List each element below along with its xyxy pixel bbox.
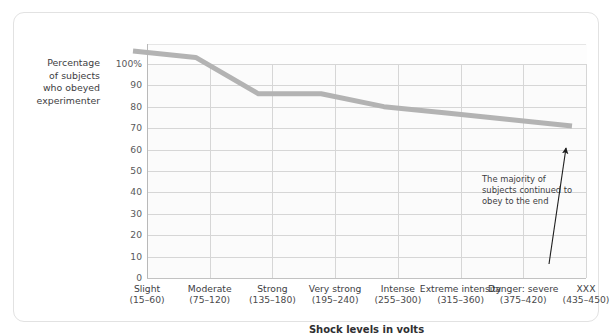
y-tick-label: 70 [102,123,142,133]
figure-root: Percentage of subjects who obeyed experi… [0,0,613,335]
y-axis-title-line-2: of subjects [49,70,100,81]
x-axis-line [147,278,586,279]
gridline-horizontal [147,107,586,108]
plot-top-border [147,44,586,45]
chart-card: Percentage of subjects who obeyed experi… [13,12,599,322]
gridline-horizontal [147,64,586,65]
y-axis-title-line-1: Percentage [47,57,100,68]
plot-area [147,64,586,278]
y-axis-title-line-4: experimenter [37,95,100,106]
x-tick-label-name: XXX [543,283,613,294]
y-tick-label: 20 [102,230,142,240]
gridline-vertical [335,64,336,278]
y-tick-label: 80 [102,102,142,112]
x-tick-label: XXX(435–450) [543,283,613,306]
plot-upper-band [147,44,587,64]
y-tick-label: 0 [102,273,142,283]
gridline-vertical [398,64,399,278]
y-tick-label: 40 [102,187,142,197]
gridline-horizontal [147,235,586,236]
gridline-vertical [461,64,462,278]
y-axis-line [147,44,148,278]
y-tick-label: 10 [102,252,142,262]
y-tick-label: 90 [102,80,142,90]
gridline-horizontal [147,85,586,86]
gridline-vertical [272,64,273,278]
gridline-horizontal [147,257,586,258]
gridline-horizontal [147,214,586,215]
gridline-vertical [586,64,587,278]
gridline-vertical [210,64,211,278]
gridline-horizontal [147,150,586,151]
y-tick-label: 50 [102,166,142,176]
gridline-horizontal [147,171,586,172]
y-tick-label: 30 [102,209,142,219]
y-axis-title: Percentage of subjects who obeyed experi… [32,57,100,107]
gridline-horizontal [147,128,586,129]
y-tick-label: 100% [102,59,142,69]
y-axis-title-line-3: who obeyed [43,82,100,93]
x-axis-title: Shock levels in volts [147,324,586,335]
gridline-vertical [523,64,524,278]
y-tick-label: 60 [102,145,142,155]
chart-annotation: The majority of subjects continued to ob… [482,174,578,208]
x-tick-label-range: (435–450) [543,294,613,305]
